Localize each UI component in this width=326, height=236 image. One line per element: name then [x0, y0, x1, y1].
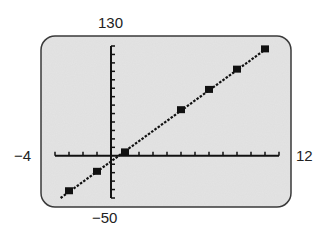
xmin-label: −4 — [14, 148, 31, 163]
data-point-marker — [65, 187, 73, 194]
xmax-label: 12 — [296, 148, 313, 163]
calculator-screen — [0, 0, 326, 236]
data-point-marker — [177, 106, 185, 113]
data-point-marker — [261, 45, 269, 52]
data-point-marker — [233, 66, 241, 73]
ymin-label: −50 — [92, 210, 117, 225]
ymax-label: 130 — [98, 15, 123, 30]
data-point-marker — [205, 86, 213, 93]
data-point-marker — [121, 148, 129, 155]
data-point-marker — [93, 168, 101, 175]
